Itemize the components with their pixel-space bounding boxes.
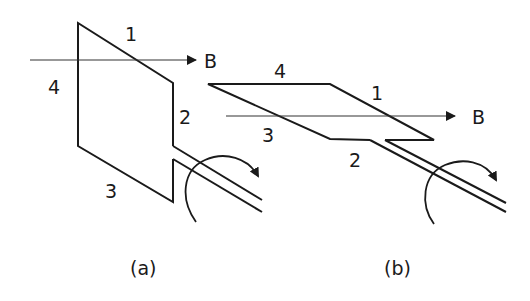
field-label-a: B xyxy=(204,50,217,72)
side-label-b-2: 2 xyxy=(349,149,361,171)
loop-b xyxy=(208,84,434,140)
caption-a: (a) xyxy=(130,257,156,279)
lead-b-lower xyxy=(370,140,506,212)
loop-a xyxy=(78,23,173,202)
diagram-canvas: B 1 2 3 4 (a) B 1 2 3 4 (b) xyxy=(0,0,530,301)
caption-b: (b) xyxy=(384,257,411,279)
side-label-b-4: 4 xyxy=(274,60,286,82)
side-label-b-1: 1 xyxy=(371,82,383,104)
side-label-a-4: 4 xyxy=(48,76,60,98)
lead-b-upper xyxy=(385,140,506,203)
side-label-b-3: 3 xyxy=(262,124,274,146)
side-label-a-2: 2 xyxy=(179,106,191,128)
figure-a: B 1 2 3 4 (a) xyxy=(30,23,262,279)
side-label-a-1: 1 xyxy=(125,23,137,45)
field-label-b: B xyxy=(472,106,485,128)
side-label-a-3: 3 xyxy=(105,180,117,202)
